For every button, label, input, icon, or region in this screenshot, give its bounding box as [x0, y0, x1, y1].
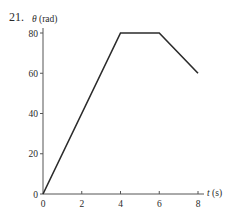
y-tick-label: 40 [29, 109, 39, 119]
x-tick-label: 0 [41, 199, 46, 209]
chart: 21. θ (rad) t (s) 020406080 02468 [0, 0, 237, 221]
x-tick-label: 2 [79, 199, 84, 209]
x-tick-label: 8 [196, 199, 201, 209]
y-tick-label: 60 [29, 69, 39, 79]
x-axis-label: t (s) [207, 188, 222, 199]
x-tick-label: 4 [118, 199, 123, 209]
y-tick-label: 80 [29, 29, 39, 39]
x-tick-label: 6 [157, 199, 162, 209]
problem-number: 21. [9, 10, 24, 24]
theta-vs-time-line [43, 33, 198, 194]
y-axis-label: θ (rad) [32, 14, 58, 25]
y-tick-label: 20 [29, 149, 39, 159]
y-tick-label: 0 [33, 190, 38, 200]
y-ticks: 020406080 [29, 29, 44, 200]
